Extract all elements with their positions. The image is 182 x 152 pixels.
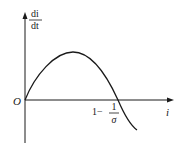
y-axis-label-numerator: di (31, 8, 39, 19)
origin-label: O (13, 95, 21, 107)
y-axis-arrow-icon (23, 12, 28, 19)
phase-diagram: di dt O i 1− 1 σ (0, 0, 182, 152)
x-axis-arrow-icon (167, 98, 174, 103)
x-axis-label: i (166, 106, 169, 118)
root-label-prefix: 1− (92, 106, 103, 117)
y-axis-label-denominator: dt (31, 20, 39, 31)
di-dt-curve (25, 52, 137, 130)
root-label-denominator: σ (112, 114, 118, 125)
root-label-numerator: 1 (112, 101, 117, 112)
